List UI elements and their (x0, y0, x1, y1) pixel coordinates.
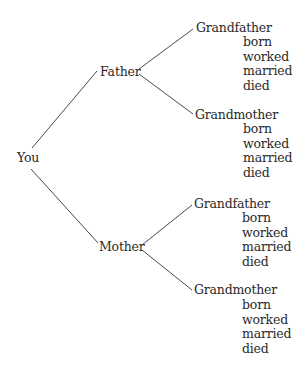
paternal-grandfather-facts: born worked married died (243, 35, 292, 93)
fact-died: died (242, 342, 291, 357)
fact-married: married (243, 64, 292, 79)
connector-mother-grandfather (142, 205, 192, 245)
fact-married: married (242, 327, 291, 342)
fact-died: died (243, 79, 292, 94)
fact-born: born (243, 35, 292, 50)
family-tree-diagram: You Father Mother Grandfather born worke… (0, 0, 306, 384)
fact-married: married (242, 240, 291, 255)
fact-born: born (242, 211, 291, 226)
connector-you-father (32, 71, 97, 148)
connector-father-grandmother (139, 74, 193, 114)
fact-worked: worked (243, 50, 292, 65)
connector-mother-grandmother (142, 250, 192, 290)
maternal-grandfather-facts: born worked married died (242, 211, 291, 269)
connector-father-grandfather (139, 29, 193, 69)
fact-worked: worked (242, 226, 291, 241)
node-paternal-grandfather: Grandfather (196, 21, 272, 35)
fact-worked: worked (243, 137, 292, 152)
fact-died: died (242, 255, 291, 270)
node-you: You (17, 151, 39, 165)
fact-born: born (242, 298, 291, 313)
node-mother: Mother (99, 240, 145, 254)
maternal-grandmother-facts: born worked married died (242, 298, 291, 356)
node-maternal-grandfather: Grandfather (194, 197, 270, 211)
node-paternal-grandmother: Grandmother (195, 108, 278, 122)
fact-married: married (243, 151, 292, 166)
connector-you-mother (31, 169, 98, 243)
fact-born: born (243, 122, 292, 137)
node-father: Father (100, 65, 141, 79)
paternal-grandmother-facts: born worked married died (243, 122, 292, 180)
fact-worked: worked (242, 313, 291, 328)
node-maternal-grandmother: Grandmother (194, 283, 277, 297)
fact-died: died (243, 166, 292, 181)
